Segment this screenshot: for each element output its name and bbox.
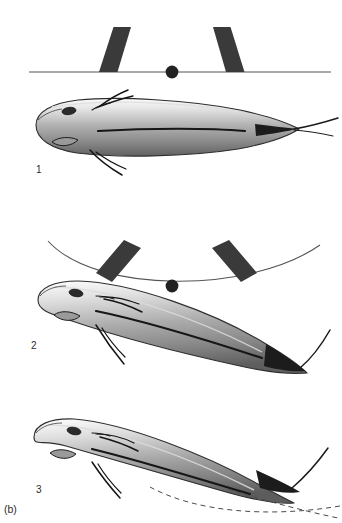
panel-2-right-fin-bar <box>212 240 257 282</box>
panel-3-pelvic-fin-1 <box>92 462 120 498</box>
panel-1-left-fin-bar <box>99 27 131 72</box>
panel-3-pelvic-fin-2 <box>98 464 121 493</box>
panel-2-axis-arc <box>48 241 320 281</box>
panel-1-number-label: 1 <box>36 164 42 175</box>
panel-3-operculum <box>50 450 76 459</box>
panel-1-caudal-filament-lower <box>294 130 333 136</box>
panel-2-center-dot <box>166 280 179 293</box>
panel-1-caudal-filament <box>294 118 338 129</box>
panel-2-number-label: 2 <box>31 340 37 351</box>
panel-2-group <box>38 240 330 373</box>
panel-1-group <box>29 27 338 175</box>
panel-1-fish <box>36 90 338 175</box>
figure-panel-b: 1 2 3 (b) <box>0 0 342 523</box>
panel-2-caudal-wedge <box>264 344 305 371</box>
panel-2-fish <box>38 281 330 373</box>
fish-bending-diagram <box>0 0 342 523</box>
panel-3-number-label: 3 <box>36 484 42 495</box>
panel-1-center-dot <box>166 66 179 79</box>
panel-3-caudal-filament <box>292 448 328 488</box>
figure-caption-label: (b) <box>4 503 17 515</box>
panel-2-caudal-filament <box>300 330 330 368</box>
panel-3-fish <box>34 419 328 503</box>
panel-3-group <box>34 419 340 518</box>
panel-1-right-fin-bar <box>213 27 245 72</box>
